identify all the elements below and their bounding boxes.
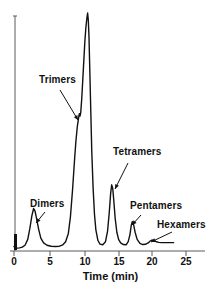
x-tick-label-25: 25: [176, 256, 196, 267]
x-tick-label-20: 20: [142, 256, 162, 267]
peak-label-dimers: Dimers: [30, 198, 65, 209]
annotation-arrows: [36, 90, 172, 242]
x-tick-label-15: 15: [109, 256, 129, 267]
arrow-trimers: [60, 90, 78, 120]
x-tick-label-10: 10: [75, 256, 95, 267]
peak-label-pentamers: Pentamers: [130, 200, 182, 211]
x-axis-title: Time (min): [0, 270, 221, 282]
chromatogram-plot: [0, 0, 221, 296]
peak-label-tetramers: Tetramers: [113, 146, 162, 157]
x-tick-label-0: 0: [4, 256, 24, 267]
peak-label-trimers: Trimers: [39, 74, 76, 85]
chromatogram-trace: [14, 13, 174, 248]
x-tick-label-5: 5: [40, 256, 60, 267]
peak-label-hexamers: Hexamers: [157, 219, 206, 230]
chromatogram-figure: Trimers Tetramers Dimers Pentamers Hexam…: [0, 0, 221, 296]
